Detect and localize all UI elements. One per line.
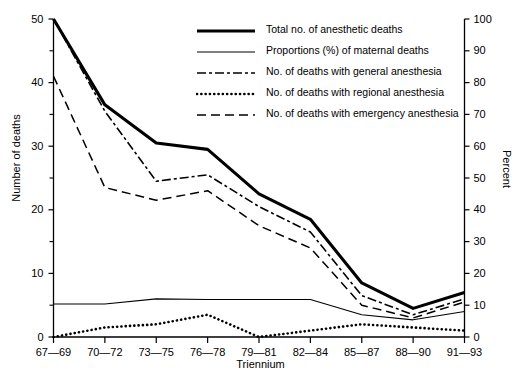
y-axis-left-tick-label: 30	[10, 141, 44, 152]
y-axis-right-tick-label: 80	[474, 77, 508, 88]
y-axis-right-tick-label: 100	[474, 14, 508, 25]
y-axis-right-tick-label: 90	[474, 45, 508, 56]
y-axis-right-tick-label: 50	[474, 173, 508, 184]
y-axis-right-tick-label: 70	[474, 109, 508, 120]
legend-line-swatch	[196, 44, 256, 56]
y-axis-left-tick-label: 50	[10, 14, 44, 25]
legend-item-label: Proportions (%) of maternal deaths	[266, 44, 429, 56]
legend-item-label: No. of deaths with regional anesthesia	[266, 86, 444, 98]
x-axis-title: Triennium	[0, 358, 521, 370]
chart-container: Number of deaths Percent Triennium 01020…	[0, 0, 521, 381]
legend-item[interactable]: No. of deaths with general anesthesia	[196, 60, 456, 81]
series-line	[54, 315, 465, 337]
legend-line-swatch	[196, 86, 256, 98]
y-axis-left-tick-label: 0	[10, 332, 44, 343]
y-axis-left-tick-label: 20	[10, 204, 44, 215]
legend-line-swatch	[196, 23, 256, 35]
legend-line-swatch	[196, 65, 256, 77]
y-axis-right-tick-label: 0	[474, 332, 508, 343]
chart-legend: Total no. of anesthetic deathsProportion…	[196, 18, 456, 123]
legend-item[interactable]: No. of deaths with emergency anesthesia	[196, 102, 456, 123]
legend-item[interactable]: No. of deaths with regional anesthesia	[196, 81, 456, 102]
y-axis-right-tick-label: 40	[474, 204, 508, 215]
x-axis-tick-label: 91—93	[433, 347, 497, 358]
legend-item-label: No. of deaths with emergency anesthesia	[266, 107, 459, 119]
legend-item-label: Total no. of anesthetic deaths	[266, 23, 403, 35]
y-axis-right-tick-label: 20	[474, 268, 508, 279]
y-axis-right-tick-label: 10	[474, 300, 508, 311]
y-axis-left-title: Number of deaths	[10, 98, 22, 218]
y-axis-left-tick-label: 40	[10, 77, 44, 88]
legend-item[interactable]: Proportions (%) of maternal deaths	[196, 39, 456, 60]
y-axis-right-tick-label: 60	[474, 141, 508, 152]
legend-item[interactable]: Total no. of anesthetic deaths	[196, 18, 456, 39]
y-axis-right-tick-label: 30	[474, 236, 508, 247]
legend-line-swatch	[196, 107, 256, 119]
legend-item-label: No. of deaths with general anesthesia	[266, 65, 442, 77]
y-axis-left-tick-label: 10	[10, 268, 44, 279]
